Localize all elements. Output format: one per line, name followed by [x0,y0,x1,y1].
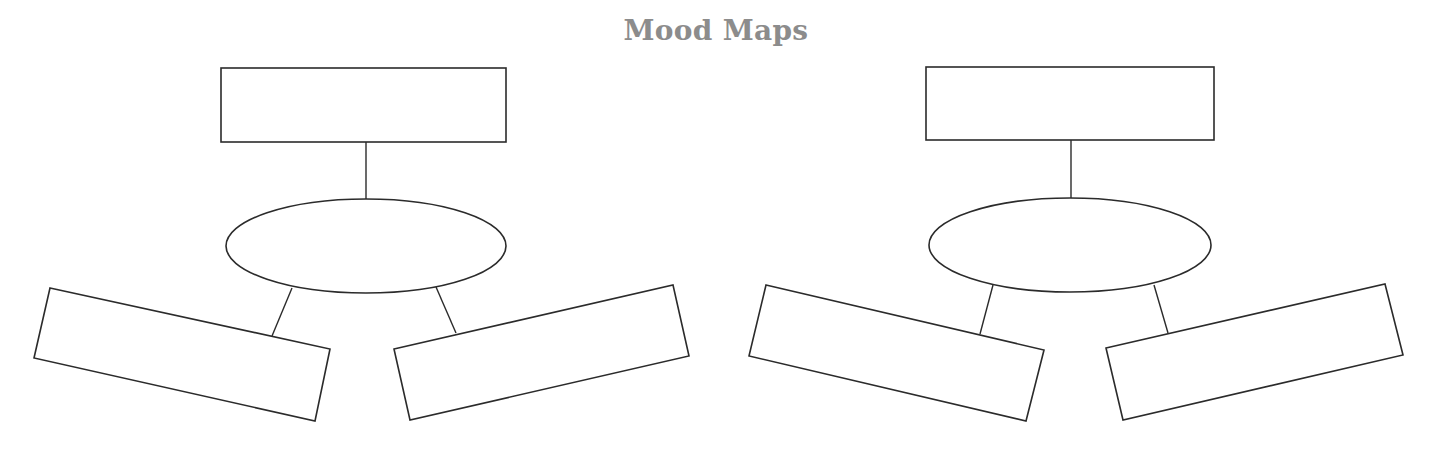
top-box[interactable] [926,67,1214,140]
bottom-right-box[interactable] [394,285,689,420]
connector-right [1154,285,1168,333]
mood-map-1 [34,68,689,421]
center-ellipse[interactable] [929,198,1211,292]
bottom-left-box[interactable] [749,285,1044,421]
top-box[interactable] [221,68,506,142]
mood-map-2 [749,67,1403,421]
connector-right [436,287,456,333]
connector-left [980,285,993,334]
mood-maps-diagram [0,0,1432,452]
bottom-left-box[interactable] [34,288,330,421]
bottom-right-box[interactable] [1106,284,1403,420]
connector-left [272,288,292,336]
center-ellipse[interactable] [226,199,506,293]
